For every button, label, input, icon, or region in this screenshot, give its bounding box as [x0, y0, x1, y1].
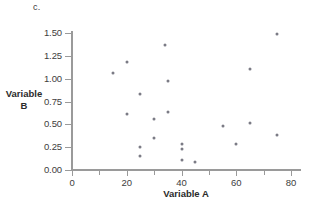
data-point [248, 67, 251, 70]
data-point [180, 143, 183, 146]
y-tick-mark [65, 102, 71, 103]
data-point [166, 110, 169, 113]
x-tick-mark [99, 171, 100, 175]
x-tick-mark [127, 171, 128, 176]
x-tick-mark [182, 171, 183, 176]
x-tick-mark [209, 171, 210, 175]
x-tick-label: 0 [57, 177, 87, 188]
x-tick-label: 40 [167, 177, 197, 188]
data-point [166, 80, 169, 83]
y-tick-mark [65, 79, 71, 80]
y-tick-label: 0.00 [44, 164, 62, 175]
y-tick-label: 1.00 [44, 73, 62, 84]
x-tick-mark [72, 171, 73, 176]
data-point [194, 160, 197, 163]
data-point [125, 61, 128, 64]
x-tick-mark [264, 171, 265, 175]
y-tick-label: 0.50 [44, 118, 62, 129]
data-point [153, 137, 156, 140]
y-tick-label: 1.50 [44, 27, 62, 38]
y-tick-mark [65, 56, 71, 57]
x-axis-title: Variable A [71, 188, 301, 199]
data-point [248, 122, 251, 125]
x-tick-mark [154, 171, 155, 175]
y-tick-mark [65, 147, 71, 148]
panel-label: c. [33, 2, 40, 12]
x-tick-label: 60 [221, 177, 251, 188]
data-point [180, 158, 183, 161]
x-tick-label: 80 [276, 177, 306, 188]
data-point [180, 148, 183, 151]
data-point [139, 93, 142, 96]
y-tick-label: 1.25 [44, 50, 62, 61]
data-point [164, 43, 167, 46]
data-point [139, 146, 142, 149]
data-point [221, 125, 224, 128]
x-tick-mark [291, 171, 292, 176]
data-point [276, 32, 279, 35]
data-point [276, 134, 279, 137]
y-axis-title: Variable B [0, 88, 48, 112]
data-point [125, 113, 128, 116]
data-point [112, 72, 115, 75]
x-tick-label: 20 [112, 177, 142, 188]
scatter-plot-figure: c. 0.000.250.500.751.001.251.50 02040608… [0, 0, 311, 204]
y-tick-mark [65, 170, 71, 171]
y-tick-label: 0.25 [44, 141, 62, 152]
x-tick-mark [236, 171, 237, 176]
y-axis-title-line1: Variable [6, 88, 42, 99]
y-tick-mark [65, 124, 71, 125]
data-point [139, 155, 142, 158]
data-point [235, 143, 238, 146]
data-point [153, 117, 156, 120]
y-axis-title-line2: B [0, 100, 48, 112]
y-tick-mark [65, 33, 71, 34]
